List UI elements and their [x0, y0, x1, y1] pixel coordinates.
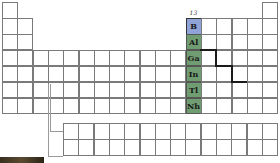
element-cell [33, 66, 49, 83]
element-cell-in: In [186, 66, 202, 83]
metalloid-divider [215, 49, 217, 67]
element-cell [140, 82, 156, 99]
element-cell [262, 98, 278, 115]
element-cell [79, 82, 95, 99]
lanthanide-cell [231, 123, 247, 140]
element-cell [247, 98, 263, 115]
element-cell [63, 66, 79, 83]
element-cell [262, 82, 278, 99]
lanthanide-cell [78, 123, 94, 140]
actinide-cell [140, 139, 156, 156]
f-block-connector [50, 131, 63, 132]
element-cell-tl: Tl [186, 82, 202, 99]
f-block-connector [50, 84, 51, 131]
metalloid-divider [200, 49, 216, 51]
element-cell [140, 98, 156, 115]
lanthanide-cell [94, 123, 110, 140]
element-cell [262, 50, 278, 67]
element-cell [155, 98, 171, 115]
lanthanide-cell [216, 123, 232, 140]
element-cell-ga: Ga [186, 50, 202, 67]
actinide-cell [124, 139, 140, 156]
element-cell [17, 82, 33, 99]
element-cell [216, 18, 232, 35]
element-cell [17, 66, 33, 83]
element-cell [48, 66, 64, 83]
element-cell [79, 66, 95, 83]
element-cell [155, 82, 171, 99]
element-cell [201, 82, 217, 99]
element-cell [232, 18, 248, 35]
actinide-cell [78, 139, 94, 156]
element-cell [63, 50, 79, 67]
element-cell [216, 98, 232, 115]
metalloid-divider [231, 65, 233, 83]
f-block-connector [48, 156, 63, 157]
element-cell [201, 98, 217, 115]
periodic-table: BAlGaInTlNh13 [0, 0, 280, 163]
element-cell [94, 82, 110, 99]
element-cell [170, 66, 186, 83]
f-block-connector [48, 84, 49, 157]
element-cell-nh: Nh [186, 98, 202, 115]
element-cell [262, 18, 278, 35]
element-cell [2, 82, 18, 99]
element-cell-b: B [186, 18, 202, 35]
element-cell [33, 98, 49, 115]
element-cell [201, 66, 217, 83]
lanthanide-cell [201, 123, 217, 140]
element-cell [2, 50, 18, 67]
element-cell [155, 66, 171, 83]
metalloid-divider [231, 81, 247, 83]
lanthanide-cell [140, 123, 156, 140]
actinide-cell [155, 139, 171, 156]
element-cell [94, 50, 110, 67]
element-cell [124, 98, 140, 115]
element-cell [247, 34, 263, 51]
element-cell [216, 82, 232, 99]
element-cell [63, 98, 79, 115]
element-cell [170, 50, 186, 67]
element-cell [247, 18, 263, 35]
element-cell [232, 34, 248, 51]
lanthanide-cell [155, 123, 171, 140]
element-cell [216, 34, 232, 51]
actinide-cell [63, 139, 79, 156]
actinide-cell [201, 139, 217, 156]
element-cell [33, 50, 49, 67]
actinide-cell [185, 139, 201, 156]
actinide-cell [216, 139, 232, 156]
actinide-cell [94, 139, 110, 156]
actinide-cell [170, 139, 186, 156]
element-cell [247, 50, 263, 67]
actinide-cell [247, 139, 263, 156]
element-cell [262, 66, 278, 83]
element-cell [124, 50, 140, 67]
element-cell [232, 82, 248, 99]
element-cell [17, 18, 33, 35]
element-cell [2, 2, 18, 19]
element-cell [140, 50, 156, 67]
element-cell [262, 34, 278, 51]
element-cell [17, 50, 33, 67]
element-cell [247, 82, 263, 99]
element-cell [262, 2, 278, 19]
element-cell [63, 82, 79, 99]
element-cell [232, 50, 248, 67]
element-cell [94, 66, 110, 83]
group-number-label: 13 [190, 9, 198, 16]
lanthanide-cell [170, 123, 186, 140]
element-cell [94, 98, 110, 115]
lanthanide-cell [185, 123, 201, 140]
element-cell [109, 98, 125, 115]
actinide-cell [262, 139, 278, 156]
element-cell [79, 50, 95, 67]
element-cell [247, 66, 263, 83]
element-cell [2, 98, 18, 115]
element-cell [109, 82, 125, 99]
element-cell [155, 50, 171, 67]
lanthanide-cell [247, 123, 263, 140]
element-cell [2, 66, 18, 83]
element-cell [17, 34, 33, 51]
element-cell [109, 66, 125, 83]
